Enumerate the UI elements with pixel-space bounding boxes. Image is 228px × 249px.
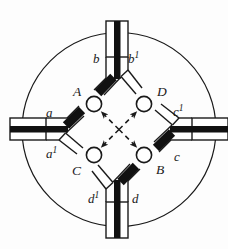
port-bottom-stub bbox=[106, 202, 128, 238]
node-D-circle[interactable] bbox=[136, 96, 151, 111]
port-label-c: c bbox=[174, 149, 180, 164]
node-label-D: D bbox=[156, 84, 167, 99]
dashed-link-to-A bbox=[101, 112, 119, 130]
port-left-stub bbox=[10, 118, 46, 140]
node-B-circle[interactable] bbox=[136, 147, 151, 162]
branch-b1-light bbox=[121, 70, 142, 94]
port-label-d1: d1 bbox=[88, 190, 99, 206]
diagram-canvas: A D C B b b1 a a1 c c1 d d1 bbox=[0, 0, 228, 249]
branch-d1-light bbox=[92, 165, 113, 189]
branch-a1-light bbox=[59, 133, 83, 154]
branch-a-dark bbox=[66, 106, 84, 133]
port-right-stub bbox=[192, 118, 228, 140]
node-A-circle[interactable] bbox=[86, 96, 101, 111]
node-C-circle[interactable] bbox=[86, 147, 101, 162]
internal-dashed-links bbox=[101, 112, 137, 148]
dashed-link-to-B bbox=[119, 130, 137, 148]
branch-d-dark bbox=[113, 164, 140, 182]
port-label-b1: b1 bbox=[128, 50, 139, 66]
branch-b-dark bbox=[94, 77, 121, 95]
port-label-c1: c1 bbox=[173, 103, 184, 119]
node-label-B: B bbox=[156, 162, 164, 177]
dashed-link-to-C bbox=[101, 130, 119, 148]
port-top-stub bbox=[106, 21, 128, 57]
port-label-b: b bbox=[93, 51, 100, 66]
branch-c-dark bbox=[154, 125, 172, 152]
port-label-d: d bbox=[132, 191, 139, 206]
waveguide-coupler-diagram: A D C B b b1 a a1 c c1 d d1 bbox=[0, 0, 228, 249]
port-label-a1: a1 bbox=[46, 145, 57, 161]
node-label-A: A bbox=[72, 84, 82, 99]
dashed-link-to-D bbox=[119, 112, 137, 130]
node-label-C: C bbox=[72, 163, 82, 178]
port-label-a: a bbox=[46, 105, 53, 120]
